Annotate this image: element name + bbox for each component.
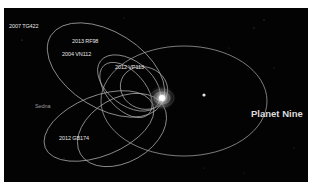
- label-2007-tg422: 2007 TG422: [9, 23, 38, 29]
- label-sedna: Sedna: [35, 103, 50, 109]
- orbit-sedna: [34, 76, 164, 175]
- sun-core: [159, 95, 165, 101]
- label-planet-nine: Planet Nine: [251, 108, 303, 119]
- orbits-layer: [4, 8, 308, 182]
- label-2013-rf98: 2013 RF98: [72, 38, 98, 44]
- label-2004-vn112: 2004 VN112: [62, 51, 91, 57]
- label-2012-gb174: 2012 GB174: [59, 135, 89, 141]
- label-2012-vp113: 2012 VP113: [115, 64, 144, 70]
- solar-system-diagram: 2007 TG422 2013 RF98 2004 VN112 2012 VP1…: [4, 8, 308, 182]
- orbit-planet-nine: [101, 46, 267, 156]
- planet-nine-dot: [202, 93, 205, 96]
